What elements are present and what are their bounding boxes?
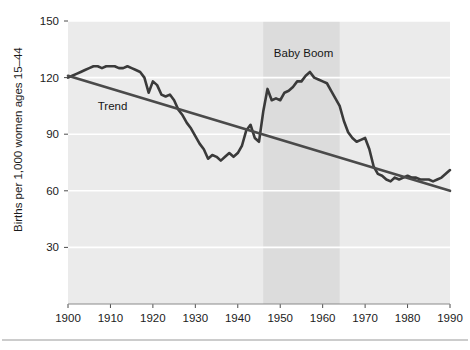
x-tick-label-1980: 1980 [395,312,421,324]
x-tick-label-1930: 1930 [183,312,209,324]
shaded-region-group [263,21,339,304]
plot-background [68,21,450,304]
x-tick-label-1940: 1940 [225,312,251,324]
x-tick-label-1950: 1950 [267,312,293,324]
baby-boom-label: Baby Boom [274,47,333,59]
baby-boom-band [263,21,339,304]
y-tick-label-30: 30 [46,241,59,253]
y-tick-label-60: 60 [46,185,59,197]
x-tick-label-1960: 1960 [310,312,336,324]
chart-canvas: 1900191019201930194019501960197019801990… [0,0,470,350]
x-tick-label-1910: 1910 [98,312,124,324]
x-tick-label-1990: 1990 [437,312,463,324]
y-tick-label-90: 90 [46,128,59,140]
x-tick-label-1900: 1900 [55,312,81,324]
y-axis-title: Births per 1,000 women ages 15–44 [12,47,24,232]
x-tick-label-1920: 1920 [140,312,166,324]
birth-rate-chart: 1900191019201930194019501960197019801990… [0,0,470,350]
trend-label: Trend [98,100,128,112]
y-tick-label-150: 150 [40,15,59,27]
y-tick-label-120: 120 [40,72,59,84]
x-tick-label-1970: 1970 [352,312,378,324]
